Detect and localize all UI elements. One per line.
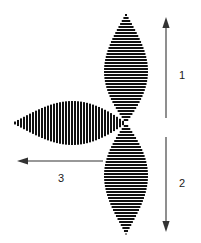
lobe-stripe [124,125,128,127]
lobe-stripe [68,101,70,145]
lobe-stripe [111,98,141,100]
lobe-stripe [105,62,148,64]
lobe-stripe [118,134,134,136]
lobe-stripe [122,116,131,118]
lobe-stripe [77,101,79,144]
lobe-stripe [113,115,115,131]
lobe-stripe [116,137,136,139]
lobe-stripe [80,102,82,145]
lobe-stripe [92,105,94,142]
lobe-stripe [122,20,131,22]
lobe-stripe [62,102,64,145]
lobe-stripe [112,101,139,103]
lobe-stripe [114,212,137,214]
lobe-stripe [104,77,147,79]
lobe-stripe [125,14,127,16]
lobe-stripe [53,104,55,143]
lobe-stripe [104,110,106,136]
lobe-stripe [114,140,138,142]
lobe-stripe [41,108,43,138]
lobe-stripe [110,149,143,151]
lobe-stripe [56,103,58,143]
lobe-stripe [107,50,144,52]
lobe-stripe [120,131,133,133]
lobe-stripe [83,102,85,144]
lobe-stripe [32,112,34,134]
lobe-stripe [20,118,22,127]
lobe-stripe [124,119,129,121]
lobe-stripe [121,224,132,226]
lobe-stripe [107,89,145,91]
lobe-stripe [112,38,139,40]
lobe-stripe [118,26,133,28]
lobe-stripe [23,117,25,129]
lobe-stripe [104,173,148,175]
lobe-stripe [106,158,145,160]
lobe-stripe [117,29,135,31]
lobe-stripe [106,56,146,58]
lobe-stripe [113,143,140,145]
lobe-stripe [104,65,148,67]
lobe-stripe [65,101,67,144]
lobe-stripe [111,41,141,43]
lobe-stripe [17,120,19,126]
arrow-label-2: 2 [179,177,185,189]
lobe-stripe [98,107,100,139]
lobe-stripe [124,230,128,232]
lobe-stripe [104,176,148,178]
figure-container: 123 [0,0,201,243]
lobe-stripe [95,106,97,141]
lobe-stripe [109,47,144,49]
lobe-stripe [118,218,135,220]
lobe-stripe [106,161,147,163]
lobe-stripe [47,106,49,141]
lobe-stripe [104,170,148,172]
lobe-stripe [118,110,135,112]
lobe-stripe [116,107,136,109]
lobe-stripe [110,44,143,46]
lobe-stripe [104,182,147,184]
lobe-stripe [38,109,40,136]
lobe-stripe [122,128,131,130]
lobe-stripe [110,95,143,97]
lobe-stripe [112,206,141,208]
lobe-stripe [120,23,132,25]
lobe-stripe [105,59,147,61]
lobe-stripe [105,167,148,169]
lobe-stripe [101,108,103,137]
lobe-stripe [120,113,133,115]
lobe-stripe [104,74,148,76]
lobe-stripe [114,35,139,37]
lobe-stripe [14,122,16,125]
lobe-stripe [111,146,141,148]
lobe-stripe [123,17,128,19]
lobe-stripe [105,80,147,82]
lobe-stripe [105,185,147,187]
lobe-stripe [104,71,148,73]
lobe-stripe [122,121,124,125]
lobe-stripe [59,102,61,144]
lobe-stripe [109,200,143,202]
lobe-stripe [105,188,146,190]
lobe-stripe [110,113,112,133]
lobe-stripe [106,191,146,193]
lobe-stripe [119,221,133,223]
lobe-stripe [26,115,28,131]
lobe-stripe [110,203,141,205]
lobe-stripe [89,104,91,143]
lobe-stripe [126,233,127,235]
lobe-stripe [107,111,109,134]
lobe-stripe [108,152,143,154]
lobe-stripe [119,119,121,127]
lobe-stripe [122,227,129,229]
lobe-stripe [35,111,37,136]
lobe-stripe [107,194,145,196]
lobe-stripe [44,107,46,140]
lobe-stripe [113,209,139,211]
lobe-stripe [104,68,148,70]
lobe-stripe [108,92,143,94]
lobe-stripe [106,86,145,88]
lobe-stripe [105,164,147,166]
lobe-stripe [107,53,146,55]
lobe-stripe [29,114,31,133]
